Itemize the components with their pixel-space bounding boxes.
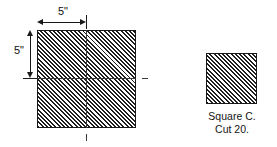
horizontal-centerline	[37, 78, 148, 79]
height-dimension-label: 5"	[4, 44, 24, 57]
small-square-caption: Square C. Cut 20.	[196, 110, 268, 136]
horizontal-dimension-line	[40, 22, 84, 23]
drawing-canvas: 5" 5" Square C. Cut 20.	[0, 0, 277, 147]
centerline-gap-vertical	[86, 128, 87, 134]
extension-line-horizontal	[23, 78, 38, 79]
extension-line-vertical	[86, 15, 87, 29]
vertical-dimension-line	[30, 33, 31, 75]
caption-line-2: Cut 20.	[196, 123, 268, 136]
centerline-gap-horizontal	[136, 78, 142, 79]
width-dimension-label: 5"	[46, 5, 80, 18]
small-hatched-square	[206, 53, 257, 104]
caption-line-1: Square C.	[196, 110, 268, 123]
vertical-centerline	[86, 30, 87, 141]
